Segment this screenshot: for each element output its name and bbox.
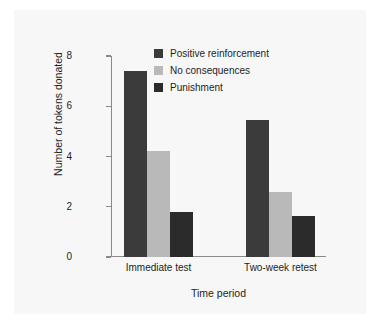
- plot-area: 02468 Immediate testTwo-week retest Numb…: [14, 10, 366, 314]
- legend-item: Positive reinforcement: [154, 46, 269, 61]
- y-axis-tick-mark: [106, 256, 111, 257]
- y-axis-line: [111, 56, 112, 257]
- bar: [170, 212, 193, 257]
- y-axis-tick-mark: [106, 206, 111, 207]
- legend-item: Punishment: [154, 80, 269, 95]
- legend-label: No consequences: [170, 66, 250, 76]
- bar: [147, 151, 170, 257]
- x-axis-title: Time period: [111, 287, 326, 299]
- legend-label: Positive reinforcement: [170, 49, 269, 59]
- y-axis-tick-label: 0: [32, 252, 72, 262]
- y-axis-tick-label: 2: [32, 202, 72, 212]
- chart-legend: Positive reinforcementNo consequencesPun…: [154, 46, 269, 97]
- x-axis-tick-label: Two-week retest: [221, 262, 341, 273]
- bar: [269, 192, 292, 257]
- y-axis-title: Number of tokens donated: [52, 34, 64, 194]
- legend-label: Punishment: [170, 83, 223, 93]
- figure-panel: 02468 Immediate testTwo-week retest Numb…: [14, 10, 366, 314]
- legend-swatch-icon: [154, 66, 163, 75]
- bar: [246, 120, 269, 257]
- legend-swatch-icon: [154, 83, 163, 92]
- legend-item: No consequences: [154, 63, 269, 78]
- y-axis-tick-mark: [106, 106, 111, 107]
- bar: [292, 216, 315, 257]
- y-axis-tick-mark: [106, 55, 111, 56]
- y-axis-tick-mark: [106, 156, 111, 157]
- legend-swatch-icon: [154, 49, 163, 58]
- bar: [124, 71, 147, 257]
- x-axis-tick-label: Immediate test: [99, 262, 219, 273]
